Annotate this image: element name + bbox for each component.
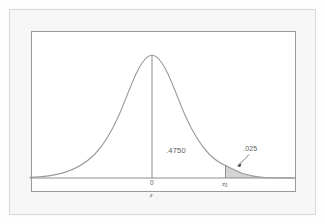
shaded-tail-region [226, 165, 295, 178]
x-axis-label: z [150, 192, 153, 199]
area-label-body: .4750 [166, 147, 186, 155]
area-label-tail: .025 [243, 145, 257, 152]
normal-distribution-chart [0, 0, 325, 224]
tick-label-critical: z0 [222, 181, 228, 188]
figure-container: .4750 .025 0 z0 z [0, 0, 325, 224]
tick-critical-subscript: 0 [225, 183, 228, 188]
normal-curve [30, 55, 294, 178]
tail-annotation-arrow [239, 155, 250, 165]
tick-label-zero: 0 [150, 180, 154, 187]
